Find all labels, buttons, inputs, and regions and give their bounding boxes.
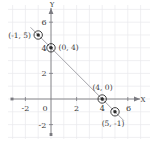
x-tick-label-4: 4 (100, 104, 105, 113)
axes (12, 8, 140, 136)
graph-svg: X Y -2 2 4 6 0 6 4 2 -2 (-1, 5 (0, 0, 154, 144)
y-axis-label: Y (49, 1, 55, 9)
point-label-p4: (5, -1) (102, 119, 125, 128)
grid-lines (8, 5, 150, 139)
y-tick-label-6: 6 (41, 18, 46, 27)
x-tick-label-6: 6 (126, 104, 131, 113)
x-tick-label-2: 2 (74, 104, 79, 113)
x-tick-label-neg2: -2 (22, 104, 30, 113)
x-axis-label: X (141, 96, 146, 104)
y-tick-label-neg2: -2 (39, 121, 47, 130)
point-label-p1: (-1, 5) (8, 31, 31, 40)
y-tick-label-4: 4 (41, 44, 46, 53)
origin-label: 0 (42, 104, 47, 113)
point-label-p2: (0, 4) (59, 43, 79, 52)
point-label-p3: (4, 0) (92, 83, 112, 92)
y-tick-label-2: 2 (41, 69, 46, 78)
coordinate-plane-figure: X Y -2 2 4 6 0 6 4 2 -2 (-1, 5 (0, 0, 154, 144)
